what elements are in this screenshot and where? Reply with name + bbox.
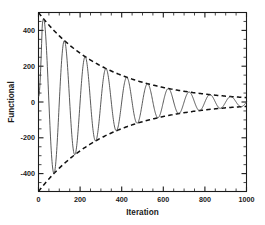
y-tick-label: -400 [21,169,35,178]
y-tick-label: -200 [21,133,35,142]
x-tick-label: 400 [116,195,128,204]
y-tick-label: 0 [31,98,35,107]
y-axis-title: Functional [7,81,16,122]
x-tick-label: 600 [157,195,169,204]
x-tick-label: 1000 [239,195,255,204]
x-axis-title: Iteration [126,208,158,217]
x-tick-label: 800 [199,195,211,204]
y-tick-label: 200 [23,62,35,71]
x-tick-label: 0 [37,195,41,204]
x-tick-label: 200 [74,195,86,204]
chart-figure: 02004006008001000 -400-2000200400 Iterat… [0,0,265,225]
chart-plot-area: 02004006008001000 -400-2000200400 Iterat… [0,0,265,225]
y-tick-label: 400 [23,26,35,35]
